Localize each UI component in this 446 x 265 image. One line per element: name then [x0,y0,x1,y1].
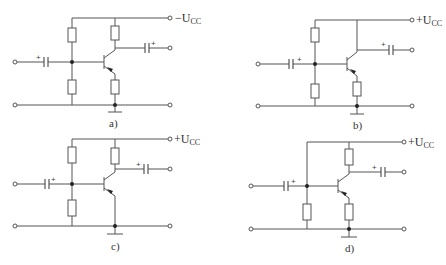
resistor-rb2 [68,200,76,216]
resistor-rb2 [68,80,76,94]
resistor-rb1 [68,147,76,163]
output-terminal [168,46,172,50]
supply-label: −UCC [175,11,201,26]
supply-label: +UCC [174,132,200,147]
panel-label: c) [111,240,120,253]
resistor-rc [111,26,119,40]
supply-label: +UCC [416,13,442,28]
resistor-rb [303,204,311,220]
svg-text:+: + [297,55,302,64]
circuit-figure: −UCC + + [0,0,446,265]
panel-b: +UCC + + b) [256,13,442,132]
panel-label: d) [345,242,355,255]
svg-text:+: + [381,40,386,49]
resistor-rc [345,149,353,165]
panel-a: −UCC + + [13,11,201,130]
resistor-rb1 [311,28,319,42]
vcc-terminal [168,16,172,20]
panel-d: +UCC + + d) [249,135,434,255]
resistor-re [111,80,119,94]
resistor-rb2 [311,84,319,98]
resistor-rc [111,148,119,164]
svg-text:+: + [151,39,156,48]
panel-label: b) [353,119,363,132]
svg-text:+: + [51,175,56,184]
svg-text:+: + [136,160,141,169]
panel-c: +UCC + + c) [13,132,200,253]
resistor-re [345,204,353,220]
panel-label: a) [109,117,118,130]
resistor-rb1 [68,28,76,42]
base-node [70,60,74,64]
input-terminal [13,60,17,64]
svg-text:+: + [291,177,296,186]
svg-text:+: + [36,53,41,62]
supply-label: +UCC [408,135,434,150]
svg-text:+: + [372,163,377,172]
resistor-re [353,82,361,96]
